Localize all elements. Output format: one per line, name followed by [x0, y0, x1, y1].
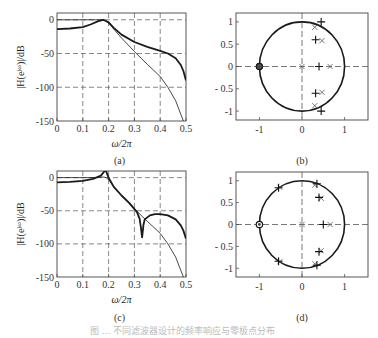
pole-plus-marker — [313, 261, 321, 269]
series-group — [57, 171, 186, 277]
panel-c-magnitude-plot: 00.10.20.30.40.50-50-100-150ω/2π|H(ejω)|… — [15, 171, 192, 324]
pole-x-marker — [312, 103, 317, 108]
x-axis-label: ω/2π — [112, 294, 133, 305]
y-tick-label: -1 — [225, 106, 233, 117]
x-tick-label: 0.3 — [128, 123, 141, 134]
y-tick-label: -50 — [41, 205, 54, 216]
x-tick-label: 0.2 — [102, 123, 115, 134]
x-tick-label: 0.4 — [154, 279, 167, 290]
x-tick-label: -1 — [255, 281, 263, 292]
y-tick-label: -100 — [36, 82, 54, 93]
y-tick-label: -50 — [41, 48, 54, 59]
y-tick-label: 1 — [228, 175, 233, 186]
panel-b-pole-zero-plot: -10110.50- 0.5-1(b) — [215, 13, 368, 167]
figure: 00.10.20.30.40.50-50-100-150ω/2π|H(ejω)|… — [0, 0, 378, 338]
y-tick-label: 0 — [228, 61, 233, 72]
x-tick-label: 1 — [342, 124, 347, 135]
plot-frame — [57, 13, 186, 121]
x-tick-label: 1 — [342, 281, 347, 292]
x-tick-label: 0 — [300, 281, 305, 292]
x-tick-label: -1 — [255, 124, 263, 135]
y-tick-label: 1 — [228, 16, 233, 27]
pole-plus-marker — [315, 63, 323, 71]
y-tick-label: 0 — [49, 14, 54, 25]
response-curve — [57, 20, 186, 81]
zero-marker — [256, 63, 263, 70]
panel-label-d: (d) — [296, 312, 308, 324]
pole-plus-marker — [315, 248, 323, 256]
x-tick-label: 0.2 — [102, 279, 115, 290]
panel-d-pole-zero-plot: -10110.50- 0.5-1(d) — [215, 172, 368, 324]
figure-caption: 图 ... 不同滤波器设计的频率响应与零极点分布 — [90, 325, 275, 336]
y-tick-label: 0.5 — [221, 197, 234, 208]
x-axis-label: ω/2π — [112, 138, 133, 149]
y-tick-label: 0.5 — [221, 39, 234, 50]
panel-label-a: (a) — [114, 155, 125, 167]
plot-frame — [57, 171, 186, 277]
x-tick-label: 0 — [55, 279, 60, 290]
response-curve — [57, 171, 186, 239]
series-group — [57, 20, 186, 121]
x-tick-label: 0.1 — [77, 123, 90, 134]
y-tick-label: 0 — [228, 219, 233, 230]
panel-a-magnitude-plot: 00.10.20.30.40.50-50-100-150ω/2π|H(ejω)|… — [15, 13, 192, 167]
x-tick-label: 0 — [55, 123, 60, 134]
y-tick-label: - 0.5 — [215, 241, 233, 252]
response-curve — [57, 20, 183, 121]
x-tick-label: 0.1 — [77, 279, 90, 290]
pole-plus-marker — [312, 36, 320, 44]
x-tick-label: 0.5 — [180, 279, 193, 290]
y-tick-label: -1 — [225, 263, 233, 274]
zero-marker-dot — [258, 223, 261, 226]
panel-label-b: (b) — [296, 155, 308, 167]
response-curve — [57, 177, 183, 277]
pole-x-marker — [319, 38, 324, 43]
pole-x-marker — [319, 90, 324, 95]
pole-plus-marker — [312, 89, 320, 97]
y-tick-label: -150 — [36, 272, 54, 283]
y-tick-label: -150 — [36, 116, 54, 127]
y-axis-label: |H(ejω)|/dB — [15, 45, 27, 89]
x-tick-label: 0.3 — [128, 279, 141, 290]
y-tick-label: 0 — [49, 172, 54, 183]
pole-plus-marker — [315, 193, 323, 201]
x-tick-label: 0 — [300, 124, 305, 135]
pole-plus-marker — [319, 221, 327, 229]
x-tick-label: 0.5 — [180, 123, 193, 134]
x-tick-label: 0.4 — [154, 123, 167, 134]
panel-label-c: (c) — [114, 312, 125, 324]
y-tick-label: - 0.5 — [215, 83, 233, 94]
pole-plus-marker — [313, 180, 321, 188]
y-tick-label: -100 — [36, 238, 54, 249]
y-axis-label: |H(ejω)|/dB — [15, 202, 27, 246]
pole-x-marker — [312, 25, 317, 30]
